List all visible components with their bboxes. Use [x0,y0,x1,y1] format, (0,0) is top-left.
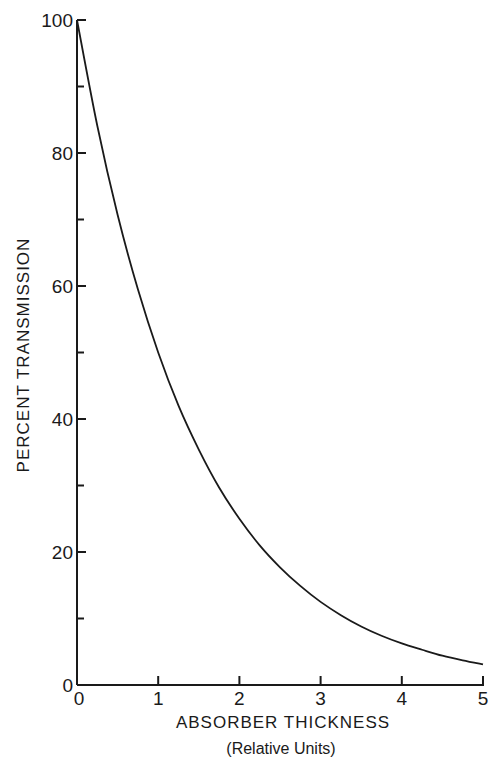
y-tick-label: 60 [52,276,73,297]
x-tick-label: 2 [234,688,245,709]
x-tick-label: 1 [153,688,164,709]
transmission-curve [77,20,483,664]
x-ticks: 012345 [74,676,489,709]
x-tick-label: 4 [397,688,408,709]
x-tick-label: 3 [315,688,326,709]
y-tick-label: 40 [52,409,73,430]
y-tick-label: 0 [62,675,73,696]
x-tick-label: 0 [74,688,85,709]
y-tick-label: 100 [41,10,73,31]
x-tick-label: 5 [478,688,489,709]
plot-area: 020406080100 012345 [41,10,488,709]
transmission-chart: 020406080100 012345 PERCENT TRANSMISSION… [0,0,500,765]
y-ticks: 020406080100 [41,10,86,696]
y-tick-label: 80 [52,143,73,164]
y-axis-label: PERCENT TRANSMISSION [14,238,33,473]
x-axis-label: ABSORBER THICKNESS [176,713,390,732]
x-axis-sublabel: (Relative Units) [226,740,335,757]
y-tick-label: 20 [52,542,73,563]
